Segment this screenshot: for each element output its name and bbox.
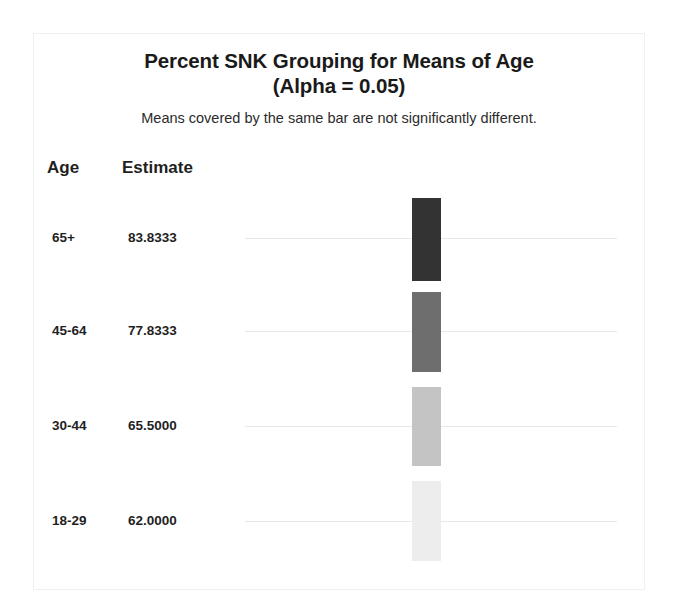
cell-estimate: 77.8333 xyxy=(128,321,228,341)
cell-age: 30-44 xyxy=(52,416,124,436)
cell-age: 65+ xyxy=(52,228,124,248)
column-header-estimate: Estimate xyxy=(122,158,222,178)
title-line-2: (Alpha = 0.05) xyxy=(33,73,645,98)
figure-title: Percent SNK Grouping for Means of Age (A… xyxy=(33,48,645,98)
table-row: 65+ 83.8333 xyxy=(0,228,675,248)
table-row: 30-44 65.5000 xyxy=(0,416,675,436)
table-header-row: Age Estimate xyxy=(0,158,675,182)
cell-age: 18-29 xyxy=(52,511,124,531)
cell-age: 45-64 xyxy=(52,321,124,341)
cell-estimate: 83.8333 xyxy=(128,228,228,248)
table-row: 45-64 77.8333 xyxy=(0,321,675,341)
cell-estimate: 65.5000 xyxy=(128,416,228,436)
figure-subtitle: Means covered by the same bar are not si… xyxy=(33,108,645,128)
table-row: 18-29 62.0000 xyxy=(0,511,675,531)
cell-estimate: 62.0000 xyxy=(128,511,228,531)
column-header-age: Age xyxy=(47,158,119,178)
snk-grouping-figure: Percent SNK Grouping for Means of Age (A… xyxy=(0,0,675,616)
title-line-1: Percent SNK Grouping for Means of Age xyxy=(33,48,645,73)
